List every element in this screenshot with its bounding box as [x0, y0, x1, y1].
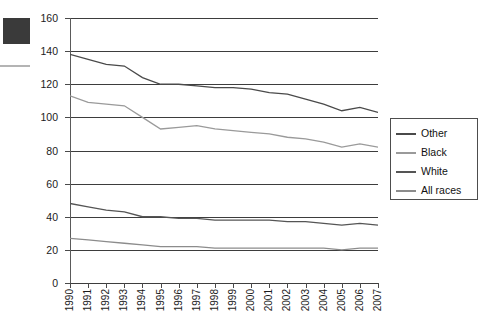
series-line-black	[70, 96, 378, 147]
x-axis-tick-label: 1994	[137, 289, 147, 311]
legend-label: All races	[421, 185, 461, 196]
y-axis-tick	[65, 151, 70, 152]
legend-item-all-races[interactable]: All races	[396, 181, 473, 200]
series-line-all-races	[70, 238, 378, 250]
y-axis-tick	[65, 117, 70, 118]
x-axis-tick	[251, 283, 252, 288]
x-axis-tick	[360, 283, 361, 288]
y-axis-tick	[65, 217, 70, 218]
x-axis-tick	[306, 283, 307, 288]
series-line-other	[70, 54, 378, 112]
x-axis-tick	[161, 283, 162, 288]
x-axis-tick-label: 1996	[174, 289, 184, 311]
x-axis-tick-label: 2003	[301, 289, 311, 311]
y-axis-tick	[65, 18, 70, 19]
legend-swatch	[396, 171, 416, 173]
legend-swatch	[396, 152, 416, 154]
y-axis-tick-label: 60	[18, 179, 58, 189]
x-axis-tick	[179, 283, 180, 288]
x-axis-tick-label: 2004	[319, 289, 329, 311]
x-axis-tick	[215, 283, 216, 288]
series-line-white	[70, 204, 378, 226]
x-axis-tick	[287, 283, 288, 288]
x-axis-tick-label: 1999	[228, 289, 238, 311]
x-axis-tick	[142, 283, 143, 288]
legend: OtherBlackWhiteAll races	[390, 118, 478, 200]
series-lines	[70, 18, 378, 283]
x-axis-line	[70, 283, 378, 284]
y-axis-tick-label: 140	[18, 46, 58, 56]
x-axis-tick-label: 2005	[337, 289, 347, 311]
x-axis-tick-label: 2002	[282, 289, 292, 311]
x-axis-tick	[269, 283, 270, 288]
legend-item-white[interactable]: White	[396, 162, 473, 181]
x-axis-tick-label: 2007	[373, 289, 383, 311]
y-axis-tick-label: 80	[18, 146, 58, 156]
x-axis-tick	[342, 283, 343, 288]
x-axis-tick	[197, 283, 198, 288]
y-axis-tick-label: 20	[18, 245, 58, 255]
legend-label: White	[421, 166, 448, 177]
x-axis-tick-label: 1990	[65, 289, 75, 311]
y-axis-tick-label: 40	[18, 212, 58, 222]
y-axis-tick	[65, 250, 70, 251]
x-axis-tick-label: 1997	[192, 289, 202, 311]
x-axis-tick-label: 1995	[156, 289, 166, 311]
legend-label: Other	[421, 128, 447, 139]
x-axis-tick-label: 2000	[246, 289, 256, 311]
x-axis-tick-label: 2001	[264, 289, 274, 311]
legend-label: Black	[421, 147, 447, 158]
y-axis-tick	[65, 84, 70, 85]
line-chart: OtherBlackWhiteAll races 160140120100806…	[0, 0, 492, 329]
legend-item-other[interactable]: Other	[396, 124, 473, 143]
y-axis-tick-label: 0	[18, 278, 58, 288]
x-axis-tick	[124, 283, 125, 288]
y-axis-tick-label: 100	[18, 112, 58, 122]
x-axis-tick	[378, 283, 379, 288]
x-axis-tick-label: 2006	[355, 289, 365, 311]
x-axis-tick	[324, 283, 325, 288]
x-axis-tick	[233, 283, 234, 288]
y-axis-tick	[65, 51, 70, 52]
x-axis-tick	[70, 283, 71, 288]
y-axis-tick	[65, 184, 70, 185]
legend-swatch	[396, 133, 416, 135]
x-axis-tick-label: 1998	[210, 289, 220, 311]
legend-item-black[interactable]: Black	[396, 143, 473, 162]
x-axis-tick-label: 1991	[83, 289, 93, 311]
x-axis-tick	[88, 283, 89, 288]
x-axis-tick-label: 1992	[101, 289, 111, 311]
x-axis-tick-label: 1993	[119, 289, 129, 311]
legend-swatch	[396, 190, 416, 192]
y-axis-tick-label: 120	[18, 79, 58, 89]
x-axis-tick	[106, 283, 107, 288]
y-axis-tick-label: 160	[18, 13, 58, 23]
